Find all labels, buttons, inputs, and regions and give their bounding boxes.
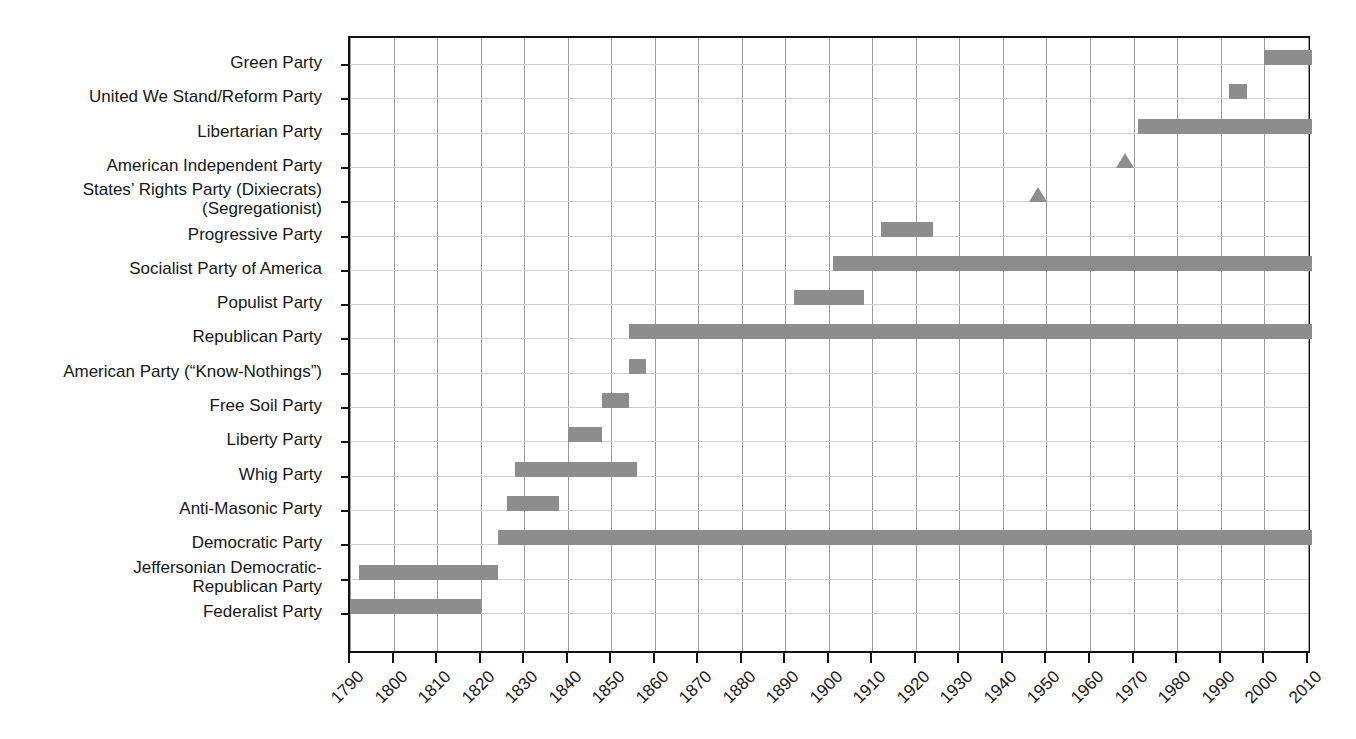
- x-axis-label-1920: 1920: [893, 667, 934, 708]
- x-axis-tick: [1262, 653, 1264, 663]
- timeline-bar: [507, 496, 559, 511]
- row-gridline: [350, 236, 1308, 237]
- y-axis-tick: [341, 373, 350, 375]
- y-axis-label-line-1: Jeffersonian Democratic-: [0, 558, 322, 577]
- x-axis-tick: [1175, 653, 1177, 663]
- y-axis-label-american-independent-party: American Independent Party: [107, 155, 322, 174]
- timeline-bar: [881, 222, 933, 237]
- x-axis-label-1860: 1860: [632, 667, 673, 708]
- y-axis-tick: [341, 133, 350, 135]
- gridline-1930: [959, 38, 960, 651]
- y-axis-tick: [341, 338, 350, 340]
- timeline-bar: [359, 565, 498, 580]
- gridline-1870: [698, 38, 699, 651]
- x-axis-tick: [870, 653, 872, 663]
- gridline-1790: [350, 38, 351, 651]
- x-axis-label-1930: 1930: [937, 667, 978, 708]
- row-gridline: [350, 201, 1308, 202]
- x-axis-label-1990: 1990: [1198, 667, 1239, 708]
- gridline-1850: [611, 38, 612, 651]
- y-axis-label-line-2: (Segregationist): [0, 199, 322, 218]
- x-axis-tick: [1306, 653, 1308, 663]
- row-gridline: [350, 476, 1308, 477]
- timeline-bar: [602, 393, 628, 408]
- y-axis-label-populist-party: Populist Party: [217, 293, 322, 312]
- timeline-bar: [498, 530, 1312, 545]
- chart-page: Green PartyUnited We Stand/Reform PartyL…: [0, 0, 1356, 739]
- gridline-1910: [872, 38, 873, 651]
- plot-area: [348, 36, 1310, 653]
- x-axis-label-1840: 1840: [545, 667, 586, 708]
- x-axis-label-1830: 1830: [501, 667, 542, 708]
- timeline-marker-square: [1229, 84, 1246, 99]
- timeline-bar: [629, 359, 646, 374]
- x-axis-label-1910: 1910: [850, 667, 891, 708]
- x-axis-tick: [348, 653, 350, 663]
- x-axis-label-1970: 1970: [1111, 667, 1152, 708]
- x-axis-label-1900: 1900: [806, 667, 847, 708]
- gridline-1960: [1090, 38, 1091, 651]
- x-axis-label-1940: 1940: [980, 667, 1021, 708]
- y-axis-tick: [341, 98, 350, 100]
- row-gridline: [350, 98, 1308, 99]
- x-axis-tick: [957, 653, 959, 663]
- y-axis-tick: [341, 407, 350, 409]
- y-axis-label-american-party-know-nothings: American Party (“Know-Nothings”): [63, 361, 322, 380]
- timeline-bar: [833, 256, 1312, 271]
- x-axis-label-2010: 2010: [1285, 667, 1326, 708]
- x-axis-label-1850: 1850: [588, 667, 629, 708]
- y-axis-label-line-1: States’ Rights Party (Dixiecrats): [0, 180, 322, 199]
- x-axis-tick: [1132, 653, 1134, 663]
- timeline-bar: [515, 462, 637, 477]
- row-gridline: [350, 613, 1308, 614]
- gridline-1900: [829, 38, 830, 651]
- gridline-1860: [655, 38, 656, 651]
- y-axis-tick: [341, 579, 350, 581]
- x-axis: 1790180018101820183018401850186018701880…: [348, 653, 1310, 739]
- x-axis-tick: [653, 653, 655, 663]
- row-gridline: [350, 167, 1308, 168]
- x-axis-label-1960: 1960: [1067, 667, 1108, 708]
- timeline-marker-triangle: [1029, 187, 1047, 202]
- x-axis-tick: [479, 653, 481, 663]
- y-axis-label-libertarian-party: Libertarian Party: [197, 121, 322, 140]
- x-axis-label-1890: 1890: [763, 667, 804, 708]
- y-axis-label-socialist-party-of-america: Socialist Party of America: [129, 258, 322, 277]
- y-axis-label-liberty-party: Liberty Party: [227, 430, 322, 449]
- x-axis-tick: [392, 653, 394, 663]
- timeline-bar: [568, 427, 603, 442]
- y-axis-label-anti-masonic-party: Anti-Masonic Party: [179, 498, 322, 517]
- y-axis-label-federalist-party: Federalist Party: [203, 601, 322, 620]
- row-gridline: [350, 441, 1308, 442]
- timeline-bar: [1138, 119, 1312, 134]
- y-axis-label-whig-party: Whig Party: [239, 464, 322, 483]
- x-axis-label-1800: 1800: [371, 667, 412, 708]
- y-axis-tick: [341, 441, 350, 443]
- y-axis-label-republican-party: Republican Party: [193, 327, 322, 346]
- y-axis-tick: [341, 510, 350, 512]
- gridline-1830: [524, 38, 525, 651]
- x-axis-tick: [566, 653, 568, 663]
- x-axis-tick: [740, 653, 742, 663]
- x-axis-tick: [1219, 653, 1221, 663]
- gridline-1820: [481, 38, 482, 651]
- x-axis-label-1810: 1810: [414, 667, 455, 708]
- x-axis-label-1980: 1980: [1154, 667, 1195, 708]
- gridline-1840: [568, 38, 569, 651]
- row-gridline: [350, 407, 1308, 408]
- y-axis-tick: [341, 476, 350, 478]
- y-axis-tick: [341, 270, 350, 272]
- y-axis-label-united-we-stand-reform-party: United We Stand/Reform Party: [89, 87, 322, 106]
- x-axis-tick: [827, 653, 829, 663]
- row-gridline: [350, 510, 1308, 511]
- y-axis-tick: [341, 544, 350, 546]
- gridline-1970: [1134, 38, 1135, 651]
- x-axis-tick: [1088, 653, 1090, 663]
- x-axis-label-2000: 2000: [1241, 667, 1282, 708]
- x-axis-label-1820: 1820: [458, 667, 499, 708]
- gridline-1880: [742, 38, 743, 651]
- timeline-bar: [1264, 50, 1312, 65]
- x-axis-tick: [435, 653, 437, 663]
- y-axis-label-column: Green PartyUnited We Stand/Reform PartyL…: [0, 0, 339, 739]
- y-axis-label-progressive-party: Progressive Party: [188, 224, 322, 243]
